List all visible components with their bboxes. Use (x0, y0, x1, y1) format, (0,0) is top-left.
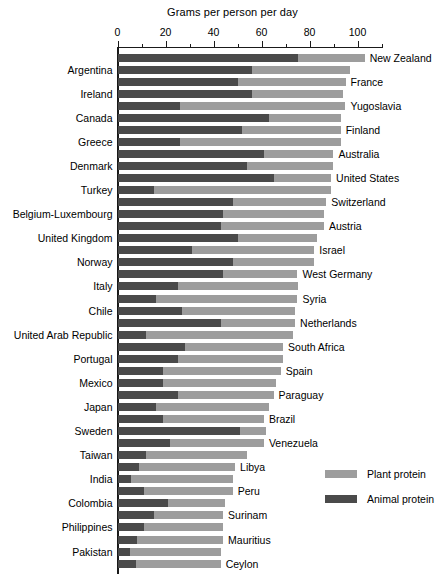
bar-row[interactable] (118, 439, 264, 447)
bar-segment-plant-protein[interactable] (182, 307, 295, 315)
bar-segment-animal-protein[interactable] (118, 319, 221, 327)
bar-segment-plant-protein[interactable] (178, 355, 284, 363)
bar-segment-animal-protein[interactable] (118, 210, 224, 218)
bar-row[interactable] (118, 90, 344, 98)
bar-segment-plant-protein[interactable] (238, 78, 346, 86)
bar-segment-animal-protein[interactable] (118, 499, 168, 507)
bar-segment-animal-protein[interactable] (118, 475, 131, 483)
bar-segment-animal-protein[interactable] (118, 355, 178, 363)
bar-segment-plant-protein[interactable] (178, 391, 274, 399)
bar-row[interactable] (118, 162, 334, 170)
bar-segment-plant-protein[interactable] (146, 451, 247, 459)
bar-row[interactable] (118, 487, 233, 495)
bar-segment-plant-protein[interactable] (240, 427, 266, 435)
bar-segment-animal-protein[interactable] (118, 536, 137, 544)
bar-segment-animal-protein[interactable] (118, 234, 238, 242)
bar-segment-animal-protein[interactable] (118, 246, 192, 254)
bar-segment-animal-protein[interactable] (118, 150, 264, 158)
bar-row[interactable] (118, 427, 267, 435)
bar-row[interactable] (118, 198, 327, 206)
bar-row[interactable] (118, 560, 221, 568)
bar-row[interactable] (118, 114, 341, 122)
bar-row[interactable] (118, 343, 284, 351)
bar-row[interactable] (118, 66, 351, 74)
bar-segment-animal-protein[interactable] (118, 548, 130, 556)
bar-segment-animal-protein[interactable] (118, 222, 221, 230)
bar-segment-animal-protein[interactable] (118, 560, 136, 568)
bar-segment-animal-protein[interactable] (118, 186, 154, 194)
bar-row[interactable] (118, 536, 224, 544)
bar-segment-animal-protein[interactable] (118, 331, 147, 339)
bar-segment-animal-protein[interactable] (118, 295, 156, 303)
bar-segment-animal-protein[interactable] (118, 415, 164, 423)
bar-segment-animal-protein[interactable] (118, 391, 178, 399)
bar-segment-plant-protein[interactable] (238, 234, 317, 242)
bar-segment-plant-protein[interactable] (154, 186, 332, 194)
bar-row[interactable] (118, 511, 224, 519)
bar-row[interactable] (118, 331, 293, 339)
bar-segment-plant-protein[interactable] (131, 475, 233, 483)
bar-row[interactable] (118, 270, 298, 278)
bar-segment-plant-protein[interactable] (180, 102, 346, 110)
bar-segment-plant-protein[interactable] (269, 114, 341, 122)
bar-segment-animal-protein[interactable] (118, 102, 180, 110)
bar-segment-animal-protein[interactable] (118, 54, 298, 62)
bar-segment-plant-protein[interactable] (156, 295, 298, 303)
bar-row[interactable] (118, 415, 264, 423)
bar-segment-animal-protein[interactable] (118, 198, 233, 206)
bar-row[interactable] (118, 234, 317, 242)
bar-segment-plant-protein[interactable] (144, 487, 233, 495)
bar-segment-plant-protein[interactable] (185, 343, 283, 351)
bar-segment-animal-protein[interactable] (118, 403, 156, 411)
bar-row[interactable] (118, 319, 296, 327)
bar-row[interactable] (118, 523, 224, 531)
bar-row[interactable] (118, 548, 221, 556)
bar-segment-animal-protein[interactable] (118, 66, 252, 74)
bar-segment-animal-protein[interactable] (118, 307, 183, 315)
bar-row[interactable] (118, 186, 332, 194)
bar-segment-plant-protein[interactable] (139, 463, 235, 471)
bar-segment-plant-protein[interactable] (170, 439, 264, 447)
bar-row[interactable] (118, 355, 284, 363)
bar-segment-plant-protein[interactable] (178, 282, 298, 290)
bar-segment-plant-protein[interactable] (163, 379, 276, 387)
bar-segment-animal-protein[interactable] (118, 367, 164, 375)
bar-row[interactable] (118, 150, 334, 158)
bar-segment-plant-protein[interactable] (223, 270, 297, 278)
bar-row[interactable] (118, 499, 226, 507)
bar-row[interactable] (118, 78, 346, 86)
bar-segment-plant-protein[interactable] (223, 210, 324, 218)
bar-row[interactable] (118, 126, 341, 134)
bar-segment-plant-protein[interactable] (154, 511, 224, 519)
bar-segment-plant-protein[interactable] (192, 246, 314, 254)
bar-segment-plant-protein[interactable] (264, 150, 334, 158)
bar-row[interactable] (118, 295, 298, 303)
bar-segment-plant-protein[interactable] (168, 499, 226, 507)
bar-segment-animal-protein[interactable] (118, 487, 144, 495)
bar-segment-plant-protein[interactable] (252, 66, 350, 74)
bar-segment-animal-protein[interactable] (118, 523, 144, 531)
bar-row[interactable] (118, 463, 236, 471)
bar-row[interactable] (118, 391, 274, 399)
bar-segment-plant-protein[interactable] (233, 198, 327, 206)
bar-segment-animal-protein[interactable] (118, 114, 269, 122)
bar-segment-plant-protein[interactable] (252, 90, 343, 98)
bar-segment-animal-protein[interactable] (118, 162, 248, 170)
bar-segment-plant-protein[interactable] (180, 138, 341, 146)
bar-segment-plant-protein[interactable] (163, 415, 264, 423)
bar-segment-plant-protein[interactable] (137, 536, 223, 544)
bar-segment-plant-protein[interactable] (221, 222, 324, 230)
bar-segment-animal-protein[interactable] (118, 379, 164, 387)
bar-row[interactable] (118, 475, 233, 483)
bar-row[interactable] (118, 307, 296, 315)
bar-segment-plant-protein[interactable] (242, 126, 340, 134)
bar-segment-animal-protein[interactable] (118, 174, 274, 182)
bar-segment-animal-protein[interactable] (118, 463, 140, 471)
bar-row[interactable] (118, 54, 365, 62)
bar-segment-plant-protein[interactable] (146, 331, 292, 339)
bar-segment-plant-protein[interactable] (221, 319, 295, 327)
bar-segment-animal-protein[interactable] (118, 138, 180, 146)
bar-row[interactable] (118, 210, 324, 218)
bar-row[interactable] (118, 258, 315, 266)
bar-segment-plant-protein[interactable] (136, 560, 221, 568)
